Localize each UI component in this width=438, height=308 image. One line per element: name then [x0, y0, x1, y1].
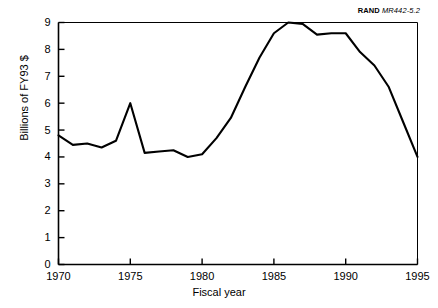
x-tick-label: 1970 [34, 271, 84, 282]
x-tick-label: 1975 [105, 271, 155, 282]
y-tick-label: 8 [23, 44, 51, 55]
y-tick-label: 7 [23, 71, 51, 82]
x-tick-label: 1995 [393, 271, 438, 282]
x-tick-label: 1990 [321, 271, 371, 282]
y-tick-label: 3 [23, 178, 51, 189]
plot-area [0, 0, 438, 308]
x-tick-label: 1980 [177, 271, 227, 282]
y-tick-label: 1 [23, 232, 51, 243]
y-tick-label: 5 [23, 125, 51, 136]
data-series-line [59, 23, 418, 157]
x-tick-label: 1985 [249, 271, 299, 282]
y-tick-label: 4 [23, 151, 51, 162]
y-tick-label: 2 [23, 205, 51, 216]
y-tick-label: 0 [23, 259, 51, 270]
y-tick-label: 9 [23, 17, 51, 28]
chart-figure: RAND MR442-5.2 Billions of FY93 $ Fiscal… [0, 0, 438, 308]
y-tick-label: 6 [23, 98, 51, 109]
